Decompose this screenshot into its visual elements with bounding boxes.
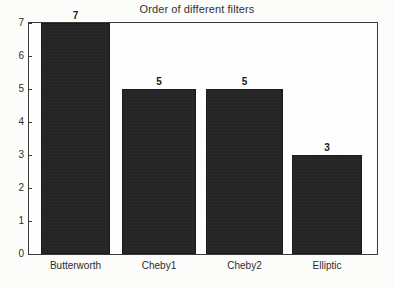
y-tick-mark bbox=[28, 254, 32, 255]
y-tick-label: 6 bbox=[8, 51, 24, 61]
y-tick-label: 5 bbox=[8, 84, 24, 94]
y-tick-label: 2 bbox=[8, 183, 24, 193]
bar bbox=[41, 23, 110, 254]
y-tick-label: 7 bbox=[8, 18, 24, 28]
y-tick-mark bbox=[28, 23, 32, 24]
y-tick-label: 1 bbox=[8, 216, 24, 226]
bar-value-label: 5 bbox=[122, 76, 196, 87]
plot-area bbox=[29, 23, 377, 254]
bar bbox=[292, 155, 362, 254]
y-tick-label: 0 bbox=[8, 249, 24, 259]
bar-value-label: 7 bbox=[41, 10, 110, 21]
bar bbox=[122, 89, 196, 254]
y-axis: 01234567 bbox=[4, 0, 24, 288]
y-tick-mark bbox=[28, 89, 32, 90]
chart-screenshot: Order of different filters 01234567 7But… bbox=[0, 0, 394, 288]
bar bbox=[206, 89, 283, 254]
bar-value-label: 3 bbox=[292, 142, 362, 153]
y-tick-mark bbox=[28, 56, 32, 57]
y-tick-mark bbox=[28, 155, 32, 156]
bar-value-label: 5 bbox=[206, 76, 283, 87]
y-tick-mark bbox=[28, 221, 32, 222]
x-tick-label: Elliptic bbox=[278, 260, 376, 271]
y-tick-label: 4 bbox=[8, 117, 24, 127]
y-tick-label: 3 bbox=[8, 150, 24, 160]
y-tick-mark bbox=[28, 122, 32, 123]
y-tick-mark bbox=[28, 188, 32, 189]
